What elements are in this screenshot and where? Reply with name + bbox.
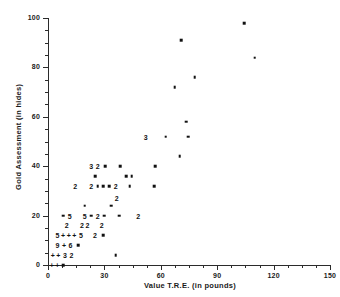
y-minor-tick (45, 228, 48, 229)
data-point (180, 39, 183, 42)
data-point (125, 175, 128, 178)
y-major-tick (43, 117, 48, 118)
overplot-count-label: 2 (89, 182, 93, 189)
overplot-count-label: 2 (100, 222, 104, 229)
x-minor-tick (203, 265, 204, 268)
overplot-count-label: 5 (83, 212, 87, 219)
overplot-count-label: 3 (63, 252, 67, 259)
data-point (119, 165, 122, 168)
overplot-count-label: 5 (79, 232, 83, 239)
y-tick-label: 100 (20, 14, 40, 22)
y-minor-tick (45, 240, 48, 241)
y-axis-title: Gold Assessment (in hides) (14, 84, 23, 190)
overplot-plus-marker: + (56, 252, 60, 259)
data-point (77, 244, 80, 247)
y-minor-tick (45, 92, 48, 93)
overplot-plus-marker: + (67, 232, 71, 239)
data-point (104, 165, 107, 168)
x-major-tick (330, 265, 331, 270)
x-tick-label: 120 (267, 272, 279, 280)
overplot-plus-marker: + (55, 262, 59, 269)
x-minor-tick (90, 265, 91, 268)
y-minor-tick (45, 203, 48, 204)
data-point (154, 165, 157, 168)
y-major-tick (43, 265, 48, 266)
x-minor-tick (189, 265, 190, 268)
x-tick-label: 30 (100, 272, 108, 280)
data-point (254, 56, 257, 59)
overplot-plus-marker: + (50, 262, 54, 269)
overplot-count-label: 2 (65, 222, 69, 229)
data-point (102, 234, 105, 237)
x-minor-tick (288, 265, 289, 268)
x-axis-title: Value T.R.E. (in pounds) (144, 281, 236, 290)
y-minor-tick (45, 104, 48, 105)
overplot-count-label: 3 (144, 133, 148, 140)
overplot-count-label: 9 (55, 242, 59, 249)
data-point (243, 22, 246, 25)
data-point (193, 76, 196, 79)
y-major-tick (43, 216, 48, 217)
x-minor-tick (133, 265, 134, 268)
y-tick-label: 20 (20, 212, 40, 220)
data-point (178, 155, 181, 158)
overplot-count-label: 2 (93, 232, 97, 239)
data-point (62, 214, 65, 217)
overplot-count-label: 2 (115, 195, 119, 202)
overplot-plus-marker: + (51, 252, 55, 259)
x-major-tick (274, 265, 275, 270)
y-minor-tick (45, 80, 48, 81)
chart-screenshot: 0306090120150020406080100 33222225522222… (0, 0, 340, 297)
x-minor-tick (260, 265, 261, 268)
data-point (185, 120, 188, 123)
x-minor-tick (175, 265, 176, 268)
data-point (130, 175, 133, 178)
y-major-tick (43, 166, 48, 167)
overplot-count-label: 2 (136, 212, 140, 219)
y-minor-tick (45, 129, 48, 130)
data-point (164, 135, 167, 138)
x-tick-label: 0 (46, 272, 50, 280)
data-point (102, 185, 105, 188)
overplot-count-label: 2 (86, 222, 90, 229)
overplot-count-label: 5 (68, 212, 72, 219)
data-point (97, 185, 100, 188)
x-minor-tick (316, 265, 317, 268)
overplot-count-label: 3 (89, 163, 93, 170)
data-point (108, 185, 111, 188)
x-tick-label: 90 (213, 272, 221, 280)
x-minor-tick (147, 265, 148, 268)
data-point (128, 185, 131, 188)
y-minor-tick (45, 154, 48, 155)
data-point (153, 185, 156, 188)
x-minor-tick (245, 265, 246, 268)
data-point (110, 204, 113, 207)
y-minor-tick (45, 253, 48, 254)
overplot-count-label: 2 (96, 163, 100, 170)
overplot-count-label: 5 (55, 232, 59, 239)
overplot-count-label: 2 (96, 212, 100, 219)
overplot-count-label: 2 (70, 252, 74, 259)
x-minor-tick (76, 265, 77, 268)
x-minor-tick (231, 265, 232, 268)
data-point (103, 214, 106, 217)
overplot-count-label: 2 (73, 182, 77, 189)
data-point (114, 254, 117, 257)
x-minor-tick (119, 265, 120, 268)
y-major-tick (43, 18, 48, 19)
y-tick-label: 80 (20, 63, 40, 71)
x-major-tick (217, 265, 218, 270)
scatter-plot: 0306090120150020406080100 33222225522222… (0, 0, 340, 297)
x-major-tick (104, 265, 105, 270)
overplot-count-label: 2 (80, 222, 84, 229)
x-minor-tick (302, 265, 303, 268)
y-minor-tick (45, 55, 48, 56)
data-point (174, 86, 177, 89)
data-point (90, 214, 93, 217)
data-point (187, 135, 190, 138)
x-major-tick (161, 265, 162, 270)
y-tick-label: 60 (20, 113, 40, 121)
data-point (118, 214, 121, 217)
overplot-plus-marker: + (72, 232, 76, 239)
x-tick-label: 60 (157, 272, 165, 280)
